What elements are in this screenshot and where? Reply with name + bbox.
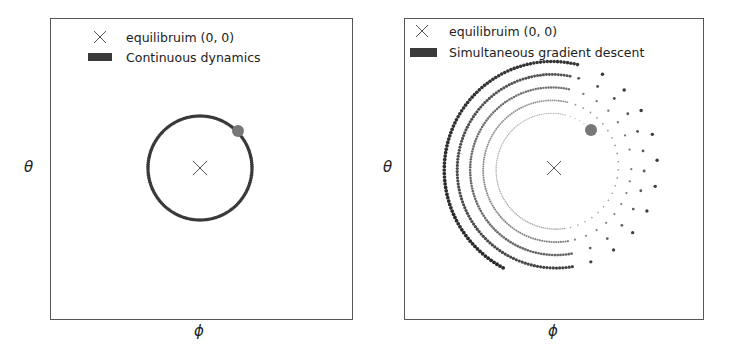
right-start-point [585,124,597,136]
legend-trajectory-label: Simultaneous gradient descent [449,45,644,60]
legend-equilibrium-label: equilibruim (0, 0) [449,24,557,39]
right-x-axis-label: ϕ [548,322,558,340]
right-plot: equilibruim (0, 0) Simultaneous gradient… [0,0,740,357]
right-plot-frame [405,19,704,320]
legend-trajectory-patch-icon [410,48,437,57]
